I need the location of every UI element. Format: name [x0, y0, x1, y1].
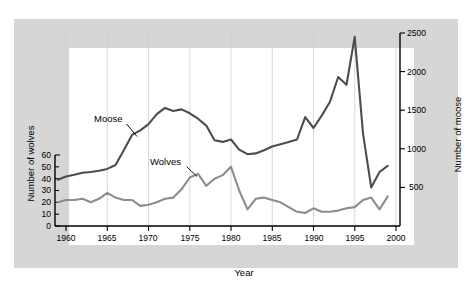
left-tick-label-60: 60	[31, 150, 51, 160]
left-tick-label-0: 0	[31, 221, 51, 231]
x-tick-label-2000: 2000	[379, 233, 413, 243]
left-axis-spine	[55, 155, 60, 226]
left-tick-label-20: 20	[31, 197, 51, 207]
x-tick-label-1960: 1960	[49, 233, 83, 243]
right-tick-label-500: 500	[409, 182, 437, 192]
x-tick-label-1985: 1985	[255, 233, 289, 243]
x-tick-label-1990: 1990	[297, 233, 331, 243]
x-tick-label-1980: 1980	[214, 233, 248, 243]
x-axis-spine	[55, 226, 400, 231]
series-annotation-moose: Moose	[94, 113, 123, 124]
right-axis-spine	[400, 33, 405, 226]
right-tick-label-1000: 1000	[407, 144, 435, 154]
series-annotation-wolves: Wolves	[150, 156, 181, 167]
left-tick-label-40: 40	[31, 174, 51, 184]
right-tick-label-2500: 2500	[407, 28, 435, 38]
right-tick-label-2000: 2000	[407, 67, 435, 77]
x-tick-label-1965: 1965	[90, 233, 124, 243]
x-tick-label-1995: 1995	[338, 233, 372, 243]
x-tick-label-1970: 1970	[131, 233, 165, 243]
left-tick-label-10: 10	[31, 209, 51, 219]
figure-canvas: Number of wolves Number of moose Year	[0, 0, 471, 284]
x-tick-label-1975: 1975	[173, 233, 207, 243]
left-tick-label-30: 30	[31, 185, 51, 195]
right-tick-label-1500: 1500	[407, 105, 435, 115]
left-tick-label-50: 50	[31, 162, 51, 172]
